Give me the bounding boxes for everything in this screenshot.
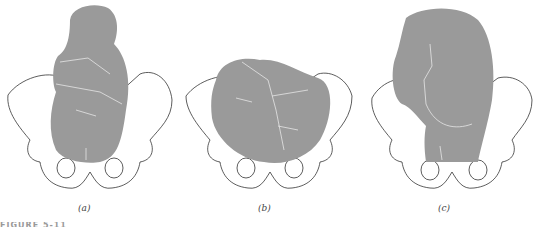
panel-label-b: (b) — [258, 203, 271, 213]
panel-label-a: (a) — [78, 203, 90, 213]
pelvis-fetus-illustration-b — [180, 0, 360, 227]
panel-c: (c) — [362, 0, 542, 227]
panel-a: (a) — [0, 0, 180, 227]
pelvis-fetus-illustration-c — [362, 0, 542, 227]
panel-b: (b) — [180, 0, 360, 227]
panel-label-c: (c) — [438, 203, 450, 213]
pelvis-fetus-illustration-a — [0, 0, 180, 227]
figure-caption-clipped: FIGURE 5-11 — [0, 222, 67, 227]
